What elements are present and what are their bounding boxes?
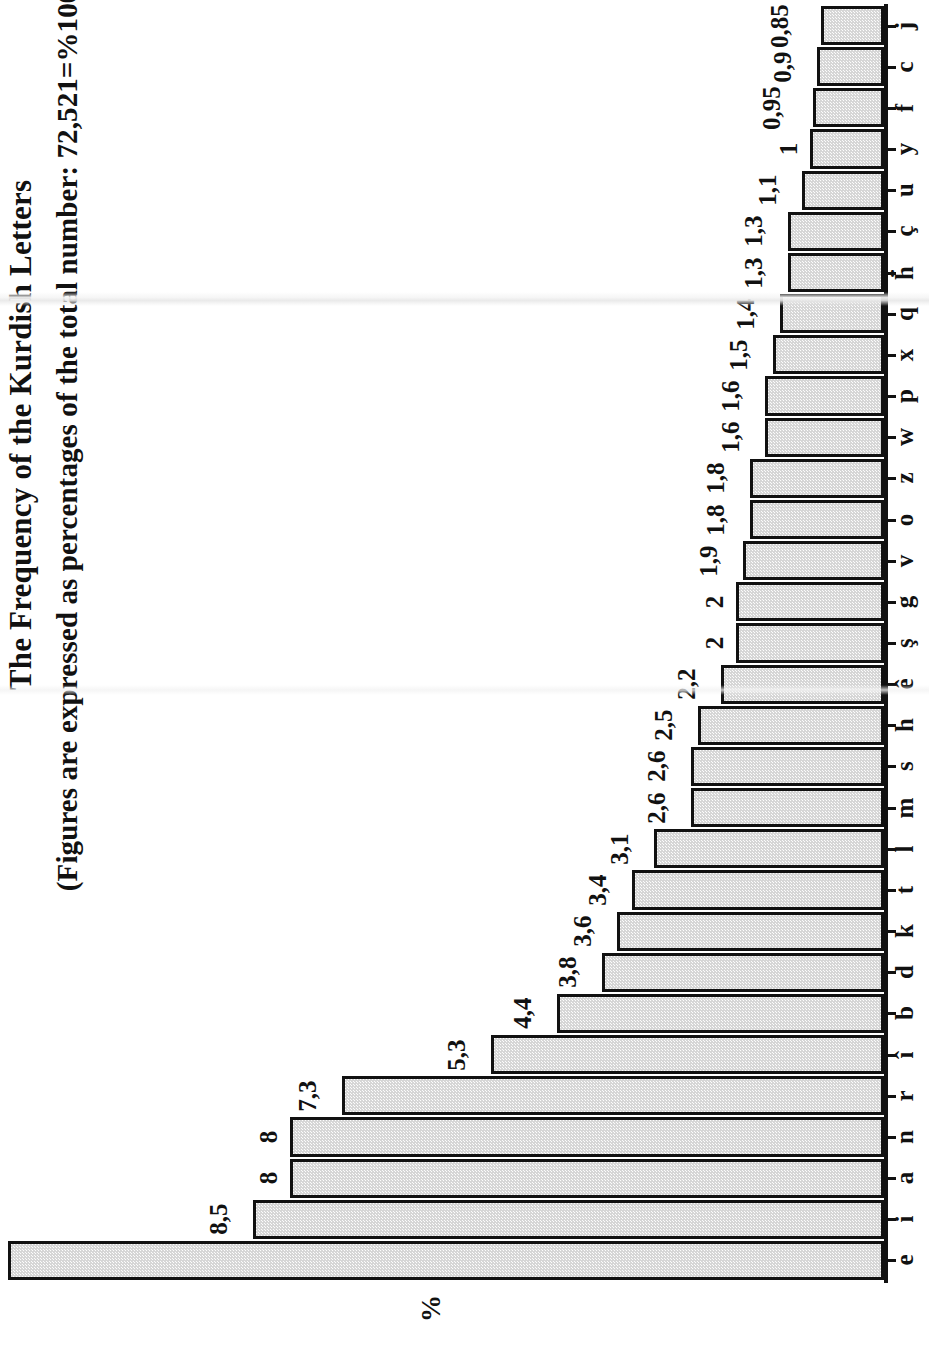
bar-row: l3,1 [594,829,884,868]
bar-î [491,1035,884,1074]
plot-area: e11,8i8,5a8n8r7,3î5,3b4,4d3,8k3,6t3,4l3,… [0,0,929,1362]
category-label-y: y [891,132,919,166]
value-label-n: 8 [256,1119,282,1154]
value-label-ê: 2,2 [673,654,699,715]
bar-j [821,6,884,45]
bar-e [8,1241,884,1280]
bar-z [750,459,884,498]
value-label-i: 8,5 [205,1189,231,1250]
bar-c [817,47,884,86]
bar-row: a8 [230,1159,884,1198]
category-label-d: d [891,955,919,989]
category-label-p: p [891,379,919,413]
category-label-ç: ç [891,214,919,248]
value-label-r: 7,3 [295,1065,321,1126]
value-label-ş: 2 [701,625,727,660]
category-label-h: h [891,708,919,742]
bar-y [810,129,884,168]
value-label-l: 3,1 [606,818,632,879]
category-label-m: m [891,791,919,825]
bar-v [743,541,884,580]
bar-row: u1,1 [742,171,884,210]
category-label-ş: ş [891,626,919,660]
bar-b [557,994,884,1033]
category-label-e: e [891,1243,919,1277]
bar-o [750,500,884,539]
category-label-o: o [891,503,919,537]
category-label-r: r [891,1079,919,1113]
category-label-t: t [891,873,919,907]
value-label-u: 1,1 [755,160,781,221]
bar-m [691,788,884,827]
category-label-j: j [891,9,919,43]
value-label-b: 4,4 [510,983,536,1044]
bar-q [780,294,884,333]
bar-f [813,88,884,127]
bar-x [773,335,884,374]
category-label-k: k [891,914,919,948]
bar-s [691,747,884,786]
bar-n [290,1117,884,1156]
category-label-n: n [891,1120,919,1154]
category-label-u: u [891,173,919,207]
bar-h [698,706,884,745]
category-label-x: x [891,338,919,372]
category-label-b: b [891,996,919,1030]
category-label-g: g [891,585,919,619]
bar-u [802,171,884,210]
bar-row: e11,8 [0,1241,884,1280]
bar-d [602,953,884,992]
category-label-v: v [891,544,919,578]
category-label-l: l [891,832,919,866]
category-label-c: c [891,50,919,84]
value-label-j: 0,85 [767,0,793,63]
bar-ç [788,212,885,251]
bar-a [290,1159,884,1198]
chart-page: The Frequency of the Kurdish Letters (Fi… [0,0,929,1362]
bar-r [342,1076,884,1115]
bar-row: ş2 [676,623,884,662]
bar-row: i8,5 [193,1200,884,1239]
bar-row: î5,3 [431,1035,884,1074]
value-axis-label: % [416,1295,447,1322]
bar-row: ç1,3 [728,212,885,251]
bar-l [654,829,884,868]
category-label-ê: ê [891,667,919,701]
bar-ş [736,623,884,662]
category-label-s: s [891,749,919,783]
bar-ḧ [788,253,885,292]
value-label-î: 5,3 [443,1024,469,1085]
bar-row: r7,3 [282,1076,884,1115]
category-label-î: î [891,1038,919,1072]
category-label-ḧ: ḧ [891,256,919,290]
bar-ê [721,665,884,704]
bar-w [765,418,884,457]
category-label-z: z [891,461,919,495]
bar-row: j0,85 [761,6,884,45]
category-label-i: i [891,1202,919,1236]
category-axis-line [884,4,888,1283]
bar-p [765,376,884,415]
category-label-w: w [891,420,919,454]
bar-i [253,1200,884,1239]
bar-row: n8 [230,1117,884,1156]
category-label-a: a [891,1161,919,1195]
bar-g [736,582,884,621]
bar-t [632,870,884,909]
bar-k [617,912,884,951]
category-label-f: f [891,91,919,125]
bar-row: ê2,2 [661,665,884,704]
category-label-q: q [891,297,919,331]
value-label-a: 8 [256,1161,282,1196]
